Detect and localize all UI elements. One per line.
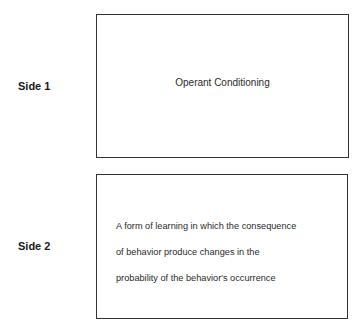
flashcard-term: Operant Conditioning [97,77,348,88]
flashcard-side-2: A form of learning in which the conseque… [96,174,348,319]
side-2-label: Side 2 [18,240,50,252]
definition-line: probability of the behavior's occurrence [116,272,296,298]
flashcard-definition: A form of learning in which the conseque… [116,220,296,298]
side-1-label: Side 1 [18,80,50,92]
definition-line: A form of learning in which the conseque… [116,220,296,246]
definition-line: of behavior produce changes in the [116,246,296,272]
flashcard-side-1: Operant Conditioning [96,14,349,158]
